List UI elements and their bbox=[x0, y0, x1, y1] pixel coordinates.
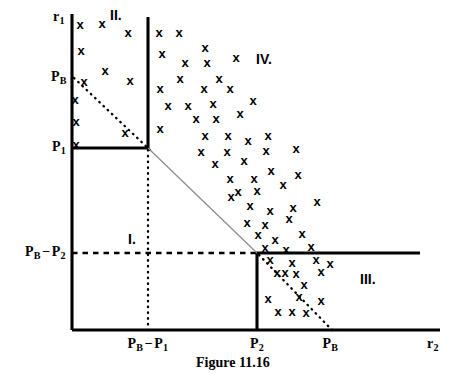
scatter-point-x-marker: x bbox=[243, 215, 251, 230]
scatter-point-x-marker: x bbox=[72, 137, 80, 152]
y-tick-label-pb-minus-p2: PB−P2 bbox=[25, 245, 66, 261]
scatter-point-x-marker: x bbox=[215, 71, 223, 86]
scatter-point-x-marker: x bbox=[200, 81, 208, 96]
scatter-point-x-marker: x bbox=[201, 128, 209, 143]
scatter-point-x-marker: x bbox=[267, 163, 275, 178]
scatter-point-x-marker: x bbox=[76, 17, 84, 32]
x-tick-label-p2: P2 bbox=[250, 337, 264, 353]
scatter-point-x-marker: x bbox=[126, 73, 134, 88]
x-tick-label-pb-minus-p1: PB−P1 bbox=[128, 337, 169, 353]
scatter-point-x-marker: x bbox=[253, 183, 261, 198]
scatter-point-x-marker: x bbox=[295, 289, 303, 304]
scatter-point-x-marker: x bbox=[292, 141, 300, 156]
region-label-region-four: IV. bbox=[256, 52, 272, 66]
scatter-point-x-marker: x bbox=[203, 55, 211, 70]
scatter-point-x-marker: x bbox=[234, 184, 242, 199]
x-axis-label: r2 bbox=[427, 337, 438, 353]
scatter-point-x-marker: x bbox=[101, 63, 109, 78]
scatter-point-x-marker: x bbox=[292, 266, 300, 281]
scatter-point-x-marker: x bbox=[271, 232, 279, 247]
region-label-region-three: III. bbox=[360, 272, 376, 286]
scatter-point-x-marker: x bbox=[158, 46, 166, 61]
scatter-point-x-marker: x bbox=[264, 291, 272, 306]
scatter-point-x-marker: x bbox=[175, 25, 183, 40]
scatter-point-x-marker: x bbox=[184, 98, 192, 113]
scatter-point-x-marker: x bbox=[156, 81, 164, 96]
scatter-point-x-marker: x bbox=[223, 144, 231, 159]
scatter-point-x-marker: x bbox=[266, 203, 274, 218]
scatter-point-x-marker: x bbox=[274, 304, 282, 319]
scatter-point-x-marker: x bbox=[273, 265, 281, 280]
scatter-point-x-marker: x bbox=[224, 128, 232, 143]
scatter-point-x-marker: x bbox=[227, 189, 235, 204]
scatter-point-x-marker: x bbox=[302, 305, 310, 320]
scatter-point-x-marker: x bbox=[176, 71, 184, 86]
scatter-point-x-marker: x bbox=[317, 293, 325, 308]
dotted-diagonal-region-two bbox=[74, 78, 150, 150]
scatter-point-x-marker: x bbox=[164, 98, 172, 113]
scatter-point-x-marker: x bbox=[232, 50, 240, 65]
scatter-point-x-marker: x bbox=[285, 211, 293, 226]
scatter-point-x-marker: x bbox=[317, 264, 325, 279]
y-tick-label-pb: PB bbox=[51, 70, 66, 86]
scatter-point-x-marker: x bbox=[80, 74, 88, 89]
scatter-point-x-marker: x bbox=[313, 194, 321, 209]
scatter-point-x-marker: x bbox=[156, 121, 164, 136]
scatter-point-x-marker: x bbox=[121, 125, 129, 140]
scatter-point-x-marker: x bbox=[192, 111, 200, 126]
scatter-layer: xxxxxxxxxxxxxxxxxxxxxxxxxxxxxxxxxxxxxxxx… bbox=[71, 16, 334, 320]
scatter-point-x-marker: x bbox=[72, 114, 80, 129]
scatter-point-x-marker: x bbox=[236, 106, 244, 121]
scatter-point-x-marker: x bbox=[226, 171, 234, 186]
scatter-point-x-marker: x bbox=[281, 265, 289, 280]
scatter-point-x-marker: x bbox=[181, 55, 189, 70]
y-tick-label-p1: P1 bbox=[52, 140, 66, 156]
scatter-point-x-marker: x bbox=[262, 143, 270, 158]
scatter-point-x-marker: x bbox=[261, 217, 269, 232]
scatter-point-x-marker: x bbox=[201, 40, 209, 55]
scatter-point-x-marker: x bbox=[249, 93, 257, 108]
y-axis-label: r1 bbox=[53, 10, 64, 26]
scatter-point-x-marker: x bbox=[244, 133, 252, 148]
scatter-point-x-marker: x bbox=[294, 167, 302, 182]
x-tick-label-pb: PB bbox=[323, 337, 338, 353]
region-label-region-one: I. bbox=[128, 232, 136, 246]
scatter-point-x-marker: x bbox=[246, 198, 254, 213]
scatter-point-x-marker: x bbox=[98, 16, 106, 31]
scatter-point-x-marker: x bbox=[211, 156, 219, 171]
figure-canvas: xxxxxxxxxxxxxxxxxxxxxxxxxxxxxxxxxxxxxxxx… bbox=[0, 0, 466, 374]
scatter-point-x-marker: x bbox=[77, 43, 85, 58]
figure-container: xxxxxxxxxxxxxxxxxxxxxxxxxxxxxxxxxxxxxxxx… bbox=[0, 0, 466, 374]
scatter-point-x-marker: x bbox=[240, 153, 248, 168]
figure-caption: Figure 11.16 bbox=[196, 355, 270, 371]
scatter-point-x-marker: x bbox=[71, 92, 79, 107]
scatter-point-x-marker: x bbox=[209, 96, 217, 111]
scatter-point-x-marker: x bbox=[212, 111, 220, 126]
scatter-point-x-marker: x bbox=[226, 81, 234, 96]
scatter-point-x-marker: x bbox=[326, 256, 334, 271]
scatter-point-x-marker: x bbox=[298, 226, 306, 241]
scatter-point-x-marker: x bbox=[197, 144, 205, 159]
scatter-point-x-marker: x bbox=[155, 25, 163, 40]
scatter-point-x-marker: x bbox=[279, 177, 287, 192]
scatter-point-x-marker: x bbox=[264, 128, 272, 143]
region-label-region-two: II. bbox=[110, 8, 122, 22]
scatter-point-x-marker: x bbox=[124, 25, 132, 40]
scatter-point-x-marker: x bbox=[288, 304, 296, 319]
